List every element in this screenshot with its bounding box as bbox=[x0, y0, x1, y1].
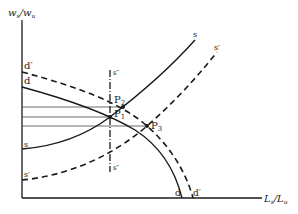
supply-demand-diagram: ws/wu Ls/Lu d′ d s s′ s s′ s″ s″ d d′ P2… bbox=[0, 0, 298, 214]
label-d-bottom: d bbox=[175, 188, 181, 198]
label-s-double-prime-top: s″ bbox=[113, 69, 120, 77]
label-d-prime-bottom: d′ bbox=[193, 188, 201, 198]
label-d-left: d bbox=[24, 75, 31, 86]
demand-curve-d-prime bbox=[22, 72, 193, 198]
label-s-double-prime-bottom: s″ bbox=[113, 164, 120, 172]
label-s-prime-top: s′ bbox=[214, 43, 220, 52]
label-s-left: s bbox=[24, 140, 28, 149]
label-s-top: s bbox=[193, 30, 197, 39]
demand-curve-d bbox=[22, 87, 182, 198]
label-s-prime-left: s′ bbox=[24, 170, 30, 179]
label-p2: P2 bbox=[114, 94, 125, 107]
point-p1 bbox=[108, 115, 112, 119]
label-d-prime-left: d′ bbox=[24, 60, 33, 71]
point-p3 bbox=[145, 124, 149, 128]
x-axis-label: Ls/Lu bbox=[263, 193, 288, 205]
y-axis-label: ws/wu bbox=[8, 7, 36, 19]
